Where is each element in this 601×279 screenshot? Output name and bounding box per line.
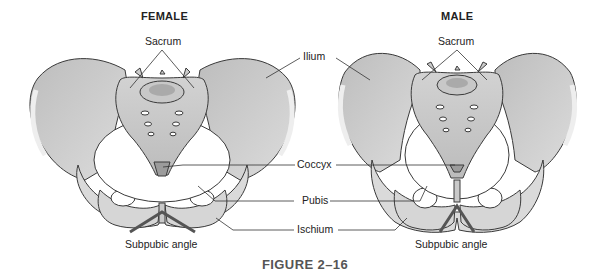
female-subpubic-angle-label: Subpubic angle: [125, 238, 197, 250]
female-title: FEMALE: [141, 10, 188, 22]
pubis-label: Pubis: [302, 194, 328, 206]
male-pelvis: [339, 53, 576, 232]
female-pelvis: [30, 59, 295, 232]
coccyx-label: Coccyx: [297, 158, 331, 170]
ischium-label: Ischium: [297, 223, 333, 235]
male-subpubic-angle-label: Subpubic angle: [415, 238, 487, 250]
male-sacrum-label: Sacrum: [438, 35, 474, 47]
pelvis-illustration: [0, 0, 601, 279]
female-sacrum-label: Sacrum: [145, 35, 181, 47]
ilium-label: Ilium: [303, 50, 325, 62]
figure-caption: FIGURE 2–16: [262, 257, 348, 272]
male-title: MALE: [441, 10, 473, 22]
